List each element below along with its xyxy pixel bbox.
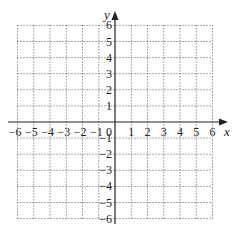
x-tick-label: −5	[25, 125, 38, 139]
y-tick-label: 4	[106, 51, 112, 65]
y-tick-label: −5	[99, 196, 112, 210]
x-tick-label: −4	[41, 125, 54, 139]
x-tick-label: −2	[74, 125, 87, 139]
y-tick-label: 1	[106, 99, 112, 113]
y-tick-label: −6	[99, 212, 112, 225]
y-tick-label: 5	[106, 35, 112, 49]
x-tick-label: 6	[210, 125, 216, 139]
x-tick-labels: −6−5−4−3−2−10123456	[9, 125, 216, 139]
y-tick-label: 6	[106, 18, 112, 32]
x-tick-label: 3	[161, 125, 167, 139]
y-tick-label: 3	[106, 67, 112, 81]
y-tick-label: −3	[99, 163, 112, 177]
y-axis-arrow-icon	[112, 11, 119, 20]
y-tick-label: −2	[99, 147, 112, 161]
y-tick-label: −4	[99, 179, 112, 193]
x-tick-label: 4	[177, 125, 183, 139]
coordinate-plane: x y −6−5−4−3−2−10123456 654321−1−2−3−4−5…	[0, 0, 233, 225]
x-tick-label: 1	[128, 125, 134, 139]
y-tick-label: 2	[106, 83, 112, 97]
y-tick-label: −1	[99, 131, 112, 145]
x-tick-label: 2	[145, 125, 151, 139]
x-axis-label: x	[223, 124, 230, 139]
x-tick-label: −6	[9, 125, 22, 139]
x-tick-label: −3	[57, 125, 70, 139]
x-tick-label: 5	[193, 125, 199, 139]
